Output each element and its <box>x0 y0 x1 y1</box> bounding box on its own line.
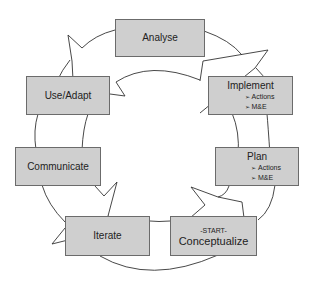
arrowhead-icon <box>218 197 244 218</box>
arrowhead-icon <box>110 82 125 96</box>
bullet-item: Actions <box>251 163 281 173</box>
node-plan: Plan Actions M&E <box>215 147 299 186</box>
ring-segment <box>100 255 218 270</box>
bullet-item: M&E <box>245 102 275 112</box>
node-use-adapt: Use/Adapt <box>26 76 110 115</box>
node-label: Use/Adapt <box>45 90 92 102</box>
node-bullets: Actions M&E <box>233 163 281 183</box>
ring-segment <box>204 31 242 55</box>
ring-segment <box>35 114 38 150</box>
node-label: Iterate <box>93 230 121 242</box>
node-label: Analyse <box>142 32 178 44</box>
ring-segment <box>258 185 275 220</box>
ring-segment <box>218 186 229 197</box>
node-label: Implement <box>227 80 274 92</box>
node-label: Plan <box>247 151 267 163</box>
node-implement: Implement Actions M&E <box>208 76 293 115</box>
arrowhead-icon <box>190 187 218 218</box>
node-iterate: Iterate <box>65 216 150 256</box>
inner-arc <box>116 70 200 82</box>
ring-segment <box>82 30 115 48</box>
start-label: -START- <box>200 226 227 235</box>
ring-segment <box>82 114 88 150</box>
node-label: Conceptualize <box>179 235 249 247</box>
node-bullets: Actions M&E <box>227 92 275 112</box>
node-analyse: Analyse <box>115 19 205 57</box>
node-label: Communicate <box>27 161 89 173</box>
bullet-item: Actions <box>245 92 275 102</box>
arrowhead-icon <box>68 35 82 80</box>
bullet-item: M&E <box>251 173 281 183</box>
node-communicate: Communicate <box>15 147 101 186</box>
ring-segment <box>150 221 170 222</box>
ring-segment <box>42 185 65 222</box>
node-conceptualize: -START- Conceptualize <box>170 216 257 256</box>
